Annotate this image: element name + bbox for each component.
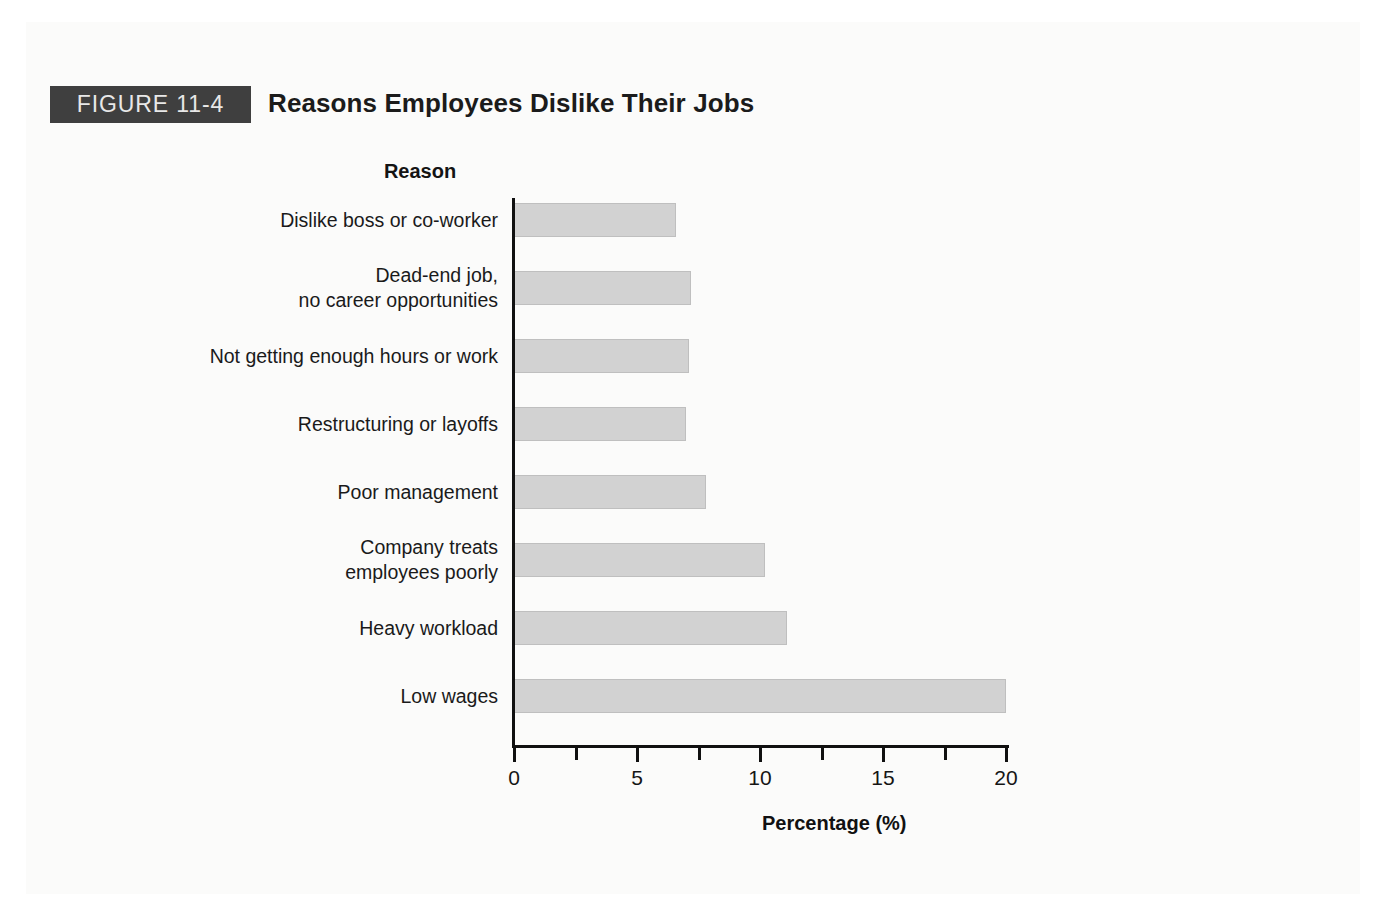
y-axis-title: Reason [335,160,505,183]
x-axis-tick [759,748,762,762]
x-axis-tick-label: 5 [607,766,667,790]
y-axis-line [512,198,515,747]
category-label: Restructuring or layoffs [78,412,498,437]
x-axis-minor-tick [944,748,947,760]
category-label: Company treats employees poorly [78,535,498,585]
category-label: Dislike boss or co-worker [78,208,498,233]
category-label: Poor management [78,480,498,505]
category-label: Heavy workload [78,616,498,641]
x-axis-tick-label: 20 [976,766,1036,790]
figure-page: FIGURE 11-4 Reasons Employees Dislike Th… [0,0,1386,916]
bar [514,203,676,237]
x-axis-minor-tick [575,748,578,760]
category-label: Dead-end job, no career opportunities [78,263,498,313]
x-axis-minor-tick [698,748,701,760]
bar [514,679,1006,713]
x-axis-tick-label: 10 [730,766,790,790]
x-axis-tick [636,748,639,762]
bar [514,543,765,577]
bar [514,611,787,645]
bar [514,339,689,373]
x-axis-tick [882,748,885,762]
x-axis-tick [513,748,516,762]
x-axis-title: Percentage (%) [762,812,907,835]
bar [514,407,686,441]
bar [514,271,691,305]
x-axis-tick-label: 15 [853,766,913,790]
bar [514,475,706,509]
x-axis-minor-tick [821,748,824,760]
bar-chart: Reason Dislike boss or co-workerDead-end… [0,0,1386,916]
x-axis-tick [1005,748,1008,762]
category-label: Not getting enough hours or work [78,344,498,369]
x-axis-tick-label: 0 [484,766,544,790]
category-label: Low wages [78,684,498,709]
